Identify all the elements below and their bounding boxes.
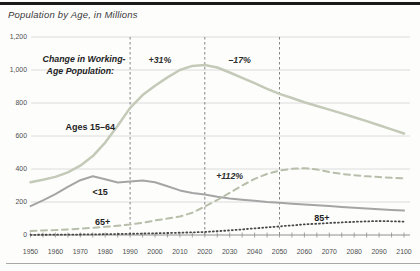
y-axis-label: 400 [16,165,28,172]
y-axis-label: 1,200 [10,33,27,40]
x-axis-label: 2010 [172,248,187,255]
y-axis-label: 800 [16,99,28,106]
figure: Population by Age, in Millions 020040060… [0,0,420,271]
annotation-pct-2020-2050: –17% [228,55,251,65]
y-axis-label: 0 [23,231,27,238]
x-axis-label: 2030 [222,248,237,255]
annotation-label-85-plus: 85+ [314,213,329,223]
y-axis-label: 1,000 [10,66,27,73]
annotation-pct-65-plus: +112% [216,171,243,181]
annotation-label-65-plus: 65+ [95,217,110,227]
series-line-under-15 [31,176,405,210]
bottom-border-rule [6,263,420,264]
y-axis-label: 600 [16,132,28,139]
x-axis-label: 2070 [322,248,337,255]
x-axis-label: 2000 [147,248,162,255]
annotation-note-line-1: Change in Working- [43,54,126,64]
annotation-note-line-2: Age Population: [46,66,115,76]
x-axis-label: 1990 [122,248,137,255]
annotation-label-under-15: <15 [93,187,108,197]
population-chart: 02004006008001,0001,20019501960197019801… [0,0,420,271]
x-axis-label: 2050 [272,248,287,255]
annotation-label-ages-15-64: Ages 15–64 [65,122,115,132]
x-axis-label: 2080 [347,248,362,255]
x-axis-label: 2090 [371,248,386,255]
y-axis-label: 200 [16,198,28,205]
x-axis-label: 1980 [98,248,113,255]
x-axis-label: 1970 [73,248,88,255]
x-axis-label: 1960 [48,248,63,255]
x-axis-label: 2060 [297,248,312,255]
annotation-pct-1990-2020: +31% [149,55,172,65]
x-axis-label: 2040 [247,248,262,255]
x-axis-label: 2020 [197,248,212,255]
x-axis-label: 1950 [23,248,38,255]
x-axis-label: 2100 [396,248,411,255]
